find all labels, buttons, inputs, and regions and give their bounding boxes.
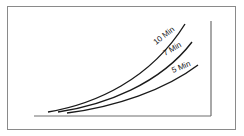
chart-plot: 10 Min 7 Min 5 Min [0,0,244,136]
